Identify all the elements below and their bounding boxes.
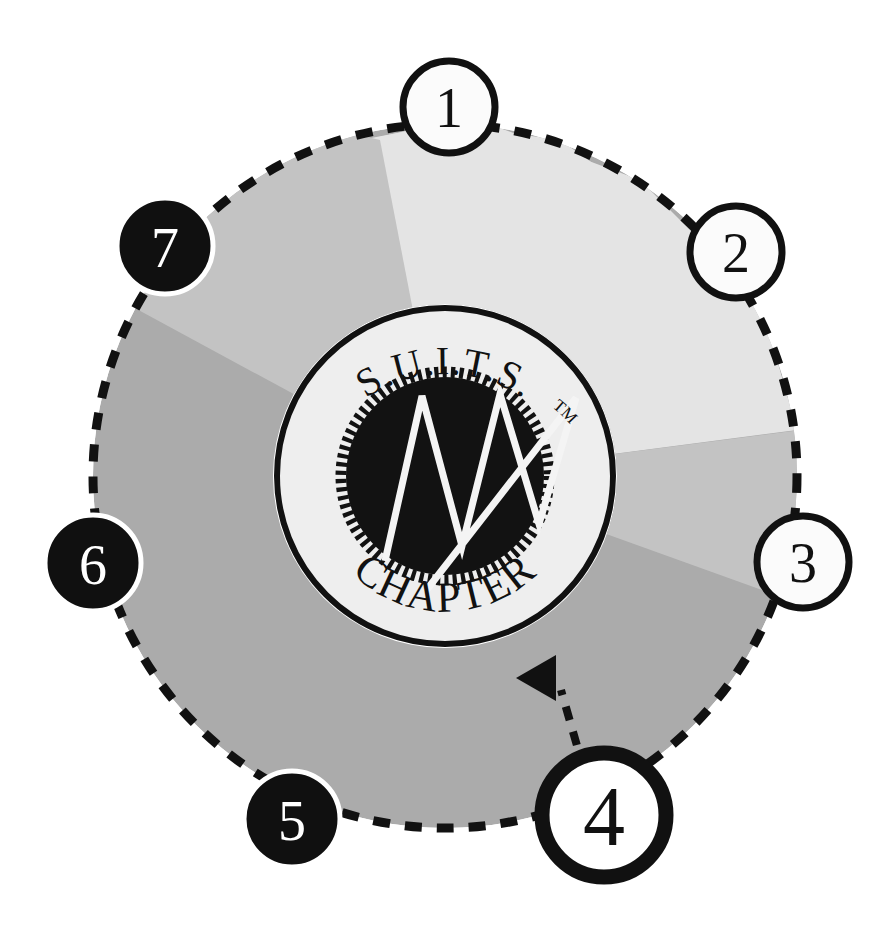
step-node-1[interactable]: 1: [403, 61, 495, 153]
step-node-1-label: 1: [435, 77, 463, 139]
wheel-diagram-canvas: S.U.I.T.S. TM CHAPTER 1 2: [0, 0, 891, 946]
step-node-4[interactable]: 4: [542, 753, 666, 877]
step-node-2[interactable]: 2: [690, 206, 782, 298]
step-node-6-label: 6: [79, 534, 107, 596]
step-node-7[interactable]: 7: [117, 198, 213, 294]
step-node-3-label: 3: [789, 532, 817, 594]
step-node-7-label: 7: [151, 217, 179, 279]
step-node-4-label: 4: [583, 770, 625, 863]
wheel-diagram: S.U.I.T.S. TM CHAPTER 1 2: [0, 0, 891, 946]
hub-medallion[interactable]: S.U.I.T.S. TM CHAPTER: [277, 308, 613, 644]
step-node-5-label: 5: [278, 790, 306, 852]
step-node-3[interactable]: 3: [757, 516, 849, 608]
step-node-5[interactable]: 5: [244, 771, 340, 867]
step-node-6[interactable]: 6: [45, 515, 141, 611]
step-node-2-label: 2: [722, 222, 750, 284]
